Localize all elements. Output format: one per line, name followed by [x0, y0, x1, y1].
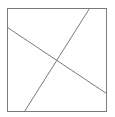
geometry-diagram [0, 0, 115, 117]
line-top-to-bottom [25, 9, 90, 112]
